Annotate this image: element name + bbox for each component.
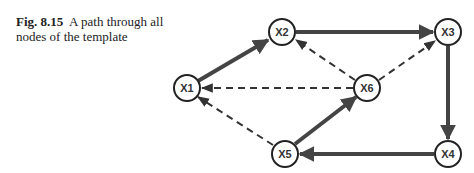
node-label-x5: X5	[278, 148, 291, 160]
solid-edges	[198, 32, 448, 154]
node-x4: X4	[435, 141, 461, 167]
node-x3: X3	[435, 19, 461, 45]
edge-x1-x2	[198, 40, 268, 81]
node-label-x4: X4	[441, 148, 455, 160]
node-x2: X2	[269, 19, 295, 45]
edge-x6-x3	[379, 41, 435, 80]
node-x1: X1	[174, 75, 200, 101]
edge-x5-x1	[198, 97, 273, 145]
node-x6: X6	[354, 75, 380, 101]
edge-x6-x2	[296, 40, 355, 80]
node-x5: X5	[272, 141, 298, 167]
node-label-x6: X6	[360, 82, 373, 94]
node-label-x3: X3	[441, 26, 454, 38]
edge-x5-x6	[295, 97, 356, 144]
node-label-x2: X2	[275, 26, 288, 38]
path-diagram: X1 X2 X3 X4 X5 X6	[0, 0, 474, 173]
node-label-x1: X1	[180, 82, 193, 94]
